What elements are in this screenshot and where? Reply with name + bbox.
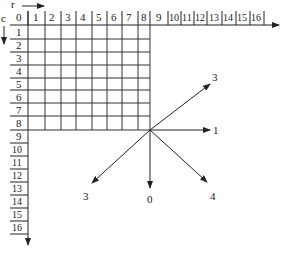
col-label: 16 (251, 12, 261, 23)
col-label: 8 (141, 11, 147, 23)
col-label: 2 (49, 11, 55, 23)
col-label: 6 (111, 11, 117, 23)
row-label: 1 (16, 26, 22, 38)
direction-grid-diagram: r c 0 1 2 3 4 5 6 7 8 9 10 11 12 (0, 0, 283, 260)
col-label: 3 (65, 11, 71, 23)
r-axis-indicator: r (11, 0, 44, 10)
direction-label: 1 (213, 124, 219, 136)
row-label: 4 (16, 65, 22, 77)
direction-label: 4 (210, 190, 216, 202)
col-label: 13 (209, 12, 219, 23)
row-label: 10 (12, 144, 22, 155)
row-label: 12 (12, 170, 22, 181)
row-label: 9 (16, 130, 22, 142)
row-label: 16 (12, 222, 22, 233)
col-label: 14 (223, 12, 233, 23)
row-label: 14 (12, 196, 22, 207)
row-label: 2 (16, 39, 22, 51)
left-header: 1 2 3 4 5 6 7 8 9 10 11 12 13 14 15 16 (10, 26, 28, 234)
col-label: 1 (33, 11, 39, 23)
col-label: 4 (80, 11, 86, 23)
row-label: 8 (16, 117, 22, 129)
col-label: 9 (156, 11, 162, 23)
col-label: 12 (195, 12, 205, 23)
row-label: 6 (16, 91, 22, 103)
r-axis-label: r (11, 0, 15, 10)
direction-arrow-3-upright-icon (150, 84, 210, 130)
c-axis-label: c (1, 12, 6, 24)
direction-label: 0 (147, 193, 153, 205)
col-label: 7 (126, 11, 132, 23)
direction-arrow-3-downleft-icon (92, 130, 150, 183)
direction-label: 3 (83, 190, 89, 202)
c-axis-indicator: c (1, 12, 6, 44)
row-label: 13 (12, 183, 22, 194)
row-label: 3 (16, 52, 22, 64)
direction-arrow-4-icon (150, 130, 207, 182)
top-header: 1 2 3 4 5 6 7 8 9 10 11 12 13 14 15 16 (28, 11, 264, 25)
col-label: 5 (96, 11, 102, 23)
row-label: 11 (12, 157, 22, 168)
row-label: 15 (12, 209, 22, 220)
col-label: 10 (169, 12, 179, 23)
pixel-grid (28, 25, 150, 130)
row-label: 5 (16, 78, 22, 90)
direction-vectors (92, 84, 210, 188)
col-label: 15 (237, 12, 247, 23)
direction-label: 3 (212, 71, 218, 83)
row-label: 7 (16, 104, 22, 116)
origin-label: 0 (16, 11, 22, 23)
col-label: 11 (182, 12, 192, 23)
